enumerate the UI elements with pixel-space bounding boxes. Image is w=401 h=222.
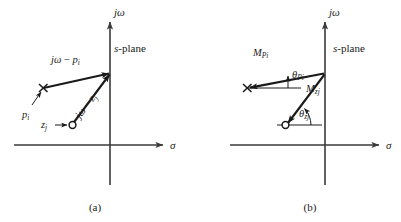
s-plane-label-a: s-plane xyxy=(114,42,146,54)
zero-marker-b xyxy=(282,122,289,129)
sigma-axis-label-a: σ xyxy=(170,139,176,151)
panel-a: jω σ s-plane jω−pi jω−zj xyxy=(14,6,176,214)
pole-angle-label-b: θPi xyxy=(292,69,304,82)
pole-leader-arrow-a xyxy=(32,92,41,105)
pole-vector-label-a: jω−pi xyxy=(49,54,80,67)
pole-zero-figure: jω σ s-plane jω−pi jω−zj xyxy=(0,0,401,222)
caption-b: (b) xyxy=(304,201,317,214)
caption-a: (a) xyxy=(89,201,102,214)
jw-axis-label-b: jω xyxy=(327,6,340,18)
jw-axis-label-a: jω xyxy=(112,6,125,18)
panel-b: jω σ s-plane MPi xyxy=(230,6,392,214)
pole-vector-a xyxy=(44,74,110,89)
pole-magnitude-label-b: MPi xyxy=(252,47,268,60)
zero-angle-label-b: θzj xyxy=(299,108,309,121)
s-plane-label-b: s-plane xyxy=(333,42,365,54)
zero-label-a: zj xyxy=(40,119,47,132)
sigma-axis-label-b: σ xyxy=(386,139,392,151)
zero-marker-a xyxy=(69,122,76,129)
pole-label-a: pi xyxy=(21,109,29,122)
figure-root: jω σ s-plane jω−pi jω−zj xyxy=(0,0,401,222)
